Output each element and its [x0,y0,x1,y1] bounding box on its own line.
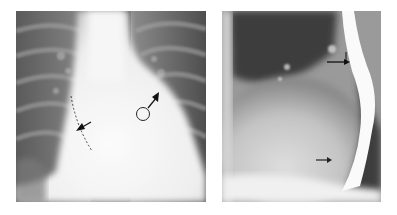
lateral-xray-image [222,11,381,202]
lateral-chest-xray [222,11,381,202]
frontal-chest-xray [16,11,206,202]
frontal-xray-image [16,11,206,202]
